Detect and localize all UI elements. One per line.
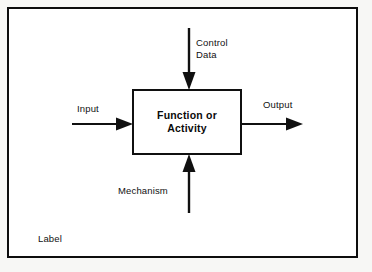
function-or-activity-label: Function or Activity bbox=[157, 109, 217, 135]
corner-label: Label bbox=[38, 233, 62, 245]
output-label: Output bbox=[263, 99, 292, 111]
output-arrow bbox=[242, 118, 303, 131]
control-arrow bbox=[183, 28, 196, 90]
mechanism-arrow bbox=[183, 154, 196, 213]
diagram-page: Function or Activity Control Data Input … bbox=[0, 0, 372, 272]
control-data-label: Control Data bbox=[196, 37, 228, 60]
function-or-activity-box[interactable]: Function or Activity bbox=[132, 89, 242, 155]
input-label: Input bbox=[77, 103, 99, 115]
input-arrow bbox=[72, 118, 133, 131]
mechanism-label: Mechanism bbox=[118, 185, 168, 197]
